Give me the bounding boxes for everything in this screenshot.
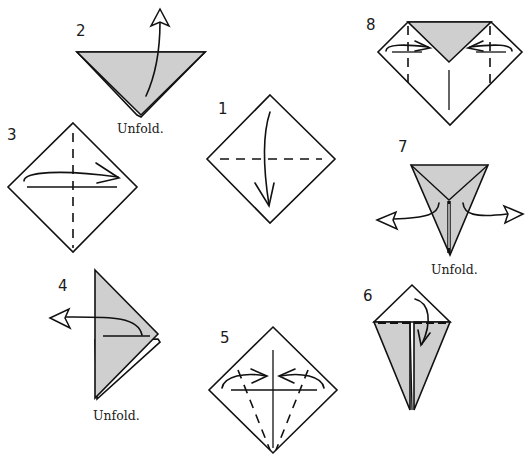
origami-diagram: 2 Unfold. 1 3 4 Unfold. 5 <box>0 0 527 463</box>
step-4: 4 Unfold. <box>50 270 160 423</box>
step-8: 8 <box>366 16 522 125</box>
step-6: 6 <box>363 285 450 410</box>
step-4-folded-triangle <box>95 270 158 398</box>
step-3: 3 <box>7 123 137 252</box>
step-2: 2 Unfold. <box>76 9 205 136</box>
step-7-caption: Unfold. <box>431 262 478 277</box>
step-7: 7 Unfold. <box>377 138 523 277</box>
step-2-caption: Unfold. <box>117 121 164 136</box>
step-1: 1 <box>207 95 335 223</box>
step-3-number: 3 <box>7 126 17 144</box>
step-4-caption: Unfold. <box>93 408 140 423</box>
step-8-number: 8 <box>366 16 376 34</box>
step-1-number: 1 <box>218 100 228 118</box>
step-6-number: 6 <box>363 287 373 305</box>
step-2-folded-triangle <box>77 52 205 115</box>
step-7-left-arrowhead-icon <box>377 212 397 229</box>
step-5-number: 5 <box>220 329 230 347</box>
step-6-left-flap <box>374 322 410 410</box>
step-4-arrowhead-icon <box>50 309 70 328</box>
step-2-number: 2 <box>76 22 86 40</box>
step-5: 5 <box>209 327 337 453</box>
step-7-number: 7 <box>398 138 408 156</box>
step-4-number: 4 <box>58 277 68 295</box>
step-6-top-flap <box>374 285 450 322</box>
